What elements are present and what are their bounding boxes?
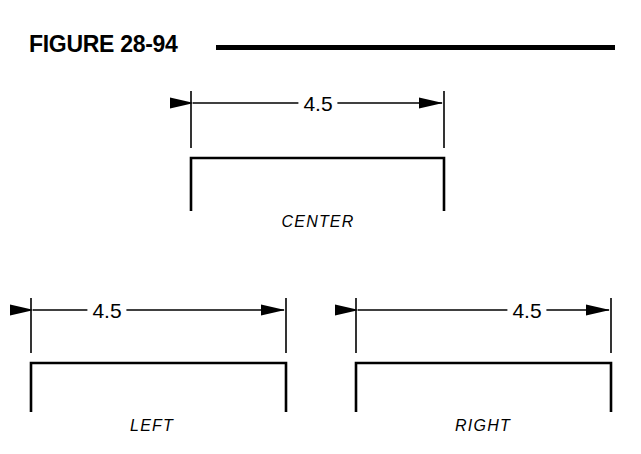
figure-title-row: FIGURE 28-94: [0, 30, 641, 64]
view-right: [356, 298, 611, 412]
view-label-left: LEFT: [130, 417, 174, 435]
view-left: [31, 298, 286, 412]
view-label-right: RIGHT: [455, 417, 511, 435]
channel-profile: [356, 363, 611, 412]
channel-profile: [31, 363, 286, 412]
dimension-text-center: 4.5: [298, 93, 337, 114]
dimension-text-right: 4.5: [507, 300, 546, 321]
figure-sheet: FIGURE 28-94: [0, 0, 641, 454]
dimension-text-left: 4.5: [87, 300, 126, 321]
figure-title: FIGURE 28-94: [29, 30, 178, 58]
view-label-center: CENTER: [282, 213, 355, 231]
title-rule: [216, 45, 615, 50]
channel-profile: [191, 158, 444, 211]
